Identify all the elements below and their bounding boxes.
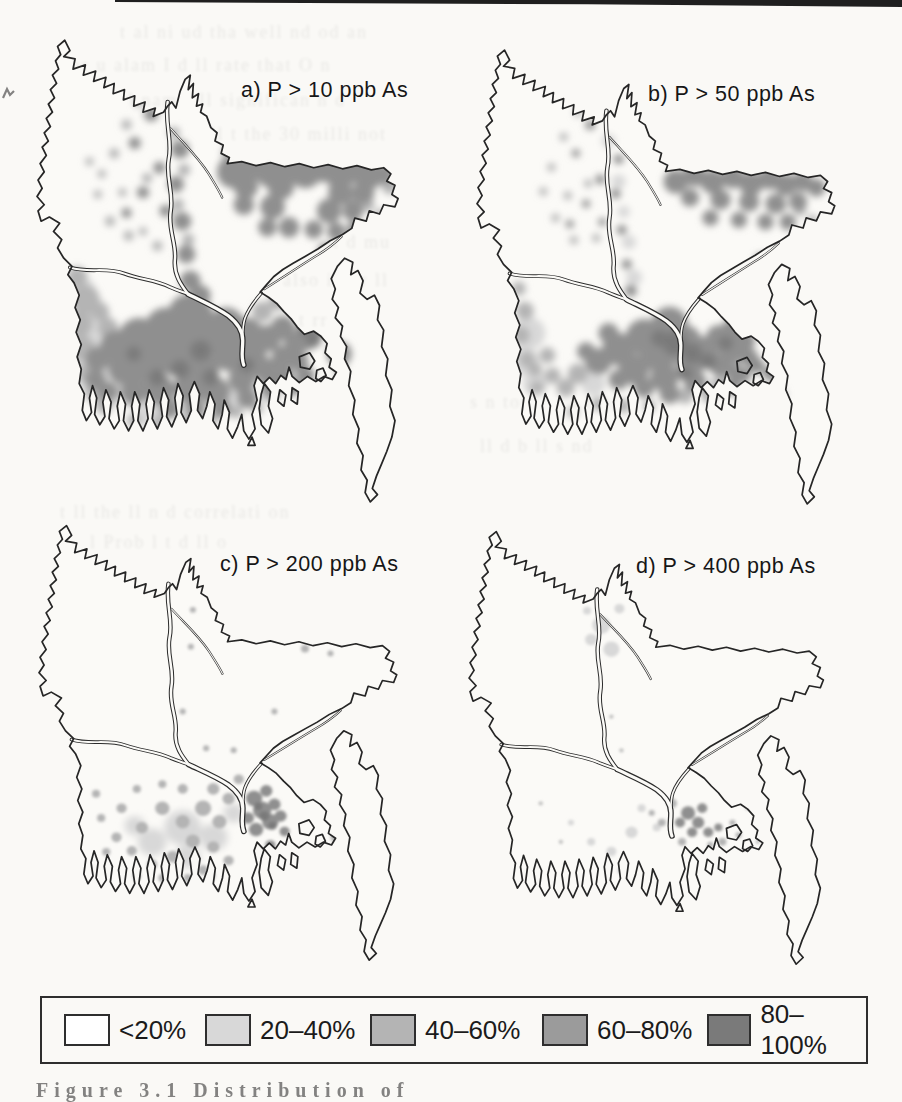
legend-item: 40–60% [370, 998, 520, 1062]
map-title-c: c) P > 200 ppb As [220, 552, 398, 577]
bangladesh-map-b [476, 40, 902, 510]
legend-item: 60–80% [542, 998, 692, 1062]
legend-item: <20% [64, 998, 186, 1062]
legend-swatch [205, 1014, 251, 1046]
legend-label: 60–80% [597, 1015, 692, 1046]
bangladesh-map-d [468, 522, 892, 970]
legend-box: <20% 20–40% 40–60% 60–80% 80–100% [40, 996, 868, 1064]
legend-item: 80–100% [707, 998, 866, 1062]
legend-swatch [64, 1014, 110, 1046]
legend-swatch [370, 1014, 416, 1046]
map-title-d: d) P > 400 ppb As [636, 554, 816, 579]
legend-swatch [707, 1014, 751, 1046]
map-panel-d: d) P > 400 ppb As [468, 522, 892, 970]
legend-label: 80–100% [760, 999, 866, 1061]
scan-edge-artifact [115, 0, 902, 7]
map-panel-c: c) P > 200 ppb As [38, 516, 466, 966]
map-title-a: a) P > 10 ppb As [241, 78, 408, 103]
stray-ink-mark [2, 86, 16, 102]
legend-label: <20% [119, 1015, 186, 1046]
figure-caption-partial: Figure 3.1 Distribution of [36, 1079, 409, 1102]
legend-swatch [542, 1014, 588, 1046]
bangladesh-map-c [38, 516, 466, 966]
map-panel-b: b) P > 50 ppb As [476, 40, 902, 510]
legend-label: 40–60% [425, 1015, 520, 1046]
legend-item: 20–40% [205, 998, 355, 1062]
map-title-b: b) P > 50 ppb As [648, 82, 815, 107]
map-panel-a: a) P > 10 ppb As [36, 30, 468, 508]
legend-label: 20–40% [260, 1015, 355, 1046]
